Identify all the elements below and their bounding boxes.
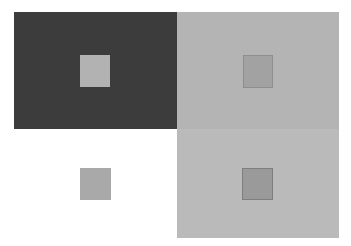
- square-top-right: [243, 55, 273, 88]
- square-bottom-right: [242, 168, 273, 200]
- panel-divider: [177, 128, 339, 129]
- square-bottom-left: [80, 168, 111, 200]
- square-top-left: [80, 55, 110, 87]
